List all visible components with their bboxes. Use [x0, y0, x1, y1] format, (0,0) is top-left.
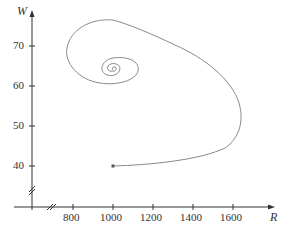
x-axis-label: R — [270, 210, 277, 225]
y-tick-label-40: 40 — [13, 159, 24, 171]
trajectory-curve — [67, 20, 241, 166]
plot-canvas — [0, 0, 289, 233]
x-tick-label-1000: 1000 — [100, 211, 122, 223]
x-tick-label-1600: 1600 — [220, 211, 242, 223]
y-axis-arrow-icon — [30, 10, 35, 17]
x-tick-label-800: 800 — [63, 211, 80, 223]
y-axis-label: W — [17, 4, 27, 19]
y-tick-label-70: 70 — [13, 39, 24, 51]
x-tick-label-1200: 1200 — [140, 211, 162, 223]
x-axis-arrow-icon — [268, 205, 275, 210]
axis-break-icon — [29, 186, 56, 210]
start-point-marker — [112, 165, 115, 168]
y-tick-label-50: 50 — [13, 119, 24, 131]
phase-plot: W R 70 60 50 40 800 1000 1200 1400 1600 — [0, 0, 289, 233]
x-tick-label-1400: 1400 — [180, 211, 202, 223]
y-tick-label-60: 60 — [13, 79, 24, 91]
